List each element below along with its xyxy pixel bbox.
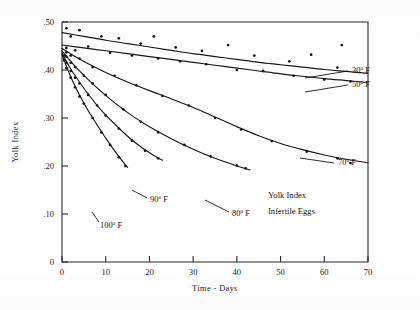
leader-line-30 (305, 71, 348, 78)
data-point (78, 95, 81, 98)
data-point (122, 108, 125, 111)
data-point (117, 127, 120, 130)
data-point (205, 63, 208, 66)
x-tick-label: 10 (101, 267, 110, 277)
data-point (96, 104, 99, 107)
series-label-80: 80o F (232, 208, 250, 218)
data-point (135, 84, 138, 87)
data-point (340, 44, 343, 47)
data-point (336, 66, 339, 69)
data-point (87, 45, 90, 48)
data-point (69, 54, 72, 57)
y-tick-label: .40 (43, 65, 54, 75)
leader-line-80 (205, 200, 229, 212)
data-point (117, 156, 120, 159)
series-label-30: 30o F (352, 65, 370, 75)
x-tick-label: 40 (233, 267, 242, 277)
series-label-90: 90o F (150, 194, 168, 204)
data-point (87, 94, 90, 97)
data-point (104, 114, 107, 117)
y-tick-label: .20 (43, 161, 54, 171)
data-point (139, 120, 142, 123)
data-point (117, 37, 120, 40)
y-tick-label: .50 (43, 17, 54, 27)
data-point (124, 165, 127, 168)
data-point (288, 60, 291, 63)
curve-50 (62, 45, 368, 82)
series-data-points (63, 27, 352, 170)
chart-canvas: 0.10.20.30.40.50 010203040506070 30o F50… (0, 0, 420, 310)
data-point (183, 144, 186, 147)
x-axis-tick-labels: 010203040506070 (60, 267, 372, 277)
data-point (78, 82, 81, 85)
leader-line-50 (305, 85, 348, 92)
series-label-leaders (92, 71, 348, 222)
curve-30 (62, 33, 368, 74)
x-tick-label: 0 (60, 267, 64, 277)
data-point (83, 102, 86, 105)
series-labels: 30o F50o F70o F80o F90o F100o F (100, 65, 370, 230)
series-label-50: 50o F (352, 79, 370, 89)
data-point (65, 27, 68, 30)
y-tick-label: .30 (43, 113, 54, 123)
x-axis-ticks (62, 256, 368, 262)
x-axis-title: Time - Days (192, 284, 238, 293)
data-point (100, 35, 103, 38)
y-tick-label: .10 (43, 209, 54, 219)
data-point (236, 164, 239, 167)
x-tick-label: 70 (364, 267, 373, 277)
data-point (69, 61, 72, 64)
y-axis-title: Yolk Index (11, 121, 20, 162)
data-point (161, 95, 164, 98)
data-point (65, 47, 68, 50)
annotation-line-1: Yolk Index (268, 190, 307, 200)
data-point (91, 117, 94, 120)
data-point (174, 46, 177, 49)
data-point (100, 131, 103, 134)
x-tick-label: 20 (145, 267, 154, 277)
data-point (78, 57, 81, 60)
annotation-line-2: Infertile Eggs (268, 206, 316, 216)
data-point (63, 59, 66, 62)
data-point (91, 66, 94, 69)
data-point (179, 60, 182, 63)
data-point (305, 150, 308, 153)
data-point (240, 128, 243, 131)
data-point (74, 49, 77, 52)
data-point (69, 70, 72, 73)
leader-line-70 (300, 158, 334, 163)
data-point (65, 51, 68, 54)
data-point (323, 78, 326, 81)
x-tick-label: 50 (276, 267, 285, 277)
data-point (209, 155, 212, 158)
data-point (227, 44, 230, 47)
x-tick-label: 60 (320, 267, 329, 277)
data-point (157, 131, 160, 134)
data-point (131, 139, 134, 142)
data-point (262, 70, 265, 73)
data-point (157, 157, 160, 160)
data-point (63, 54, 66, 57)
data-point (157, 57, 160, 60)
data-point (236, 69, 239, 72)
data-point (109, 144, 112, 147)
data-point (253, 54, 256, 57)
data-point (109, 51, 112, 54)
data-point (292, 74, 295, 77)
data-point (139, 42, 142, 45)
data-point (74, 66, 77, 69)
data-point (270, 140, 273, 143)
data-point (69, 35, 72, 38)
data-point (310, 53, 313, 56)
leader-line-90 (132, 190, 147, 198)
x-tick-label: 30 (189, 267, 198, 277)
data-point (113, 74, 116, 77)
data-point (78, 29, 81, 32)
data-point (201, 49, 204, 52)
data-point (74, 86, 77, 89)
y-tick-label: 0 (50, 257, 54, 267)
yolk-index-figure: 0.10.20.30.40.50 010203040506070 30o F50… (0, 0, 420, 310)
data-point (83, 74, 86, 77)
data-point (104, 94, 107, 97)
series-label-100: 100o F (100, 220, 122, 230)
